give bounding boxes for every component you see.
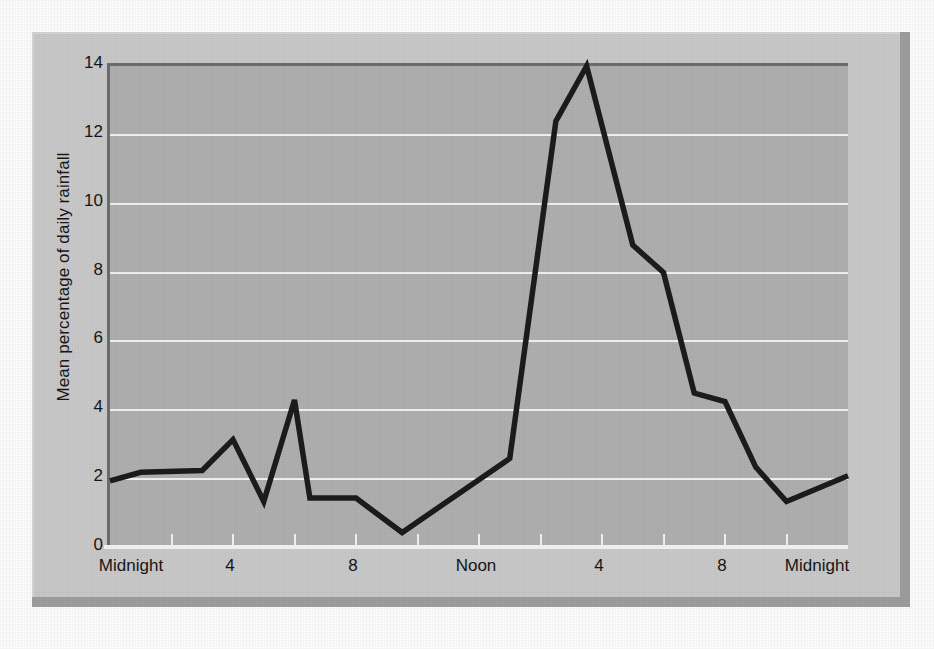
x-tick-label-6: Midnight bbox=[785, 556, 849, 576]
figure-root: Mean percentage of daily rainfall 024681… bbox=[0, 0, 934, 649]
data-line-svg bbox=[110, 66, 848, 548]
chart-card-panel: Mean percentage of daily rainfall 024681… bbox=[32, 32, 900, 597]
y-tick-label-4: 4 bbox=[69, 397, 103, 417]
x-tick-label-5: 8 bbox=[717, 556, 726, 576]
plot-area bbox=[107, 63, 848, 548]
y-axis-tick-labels: 02468101214 bbox=[59, 63, 103, 545]
rainfall-data-line bbox=[110, 66, 848, 533]
y-tick-label-0: 0 bbox=[69, 535, 103, 555]
x-tick-label-1: 4 bbox=[225, 556, 234, 576]
x-tick-label-4: 4 bbox=[594, 556, 603, 576]
x-axis-baseline bbox=[104, 545, 848, 549]
x-axis-tick-labels: Midnight48Noon48Midnight bbox=[107, 556, 845, 584]
x-tick-label-0: Midnight bbox=[99, 556, 163, 576]
y-tick-label-14: 14 bbox=[69, 53, 103, 73]
x-tick-label-2: 8 bbox=[348, 556, 357, 576]
y-tick-label-6: 6 bbox=[69, 328, 103, 348]
y-tick-label-12: 12 bbox=[69, 122, 103, 142]
y-tick-label-10: 10 bbox=[69, 191, 103, 211]
x-tick-label-3: Noon bbox=[456, 556, 497, 576]
y-tick-label-2: 2 bbox=[69, 466, 103, 486]
y-tick-label-8: 8 bbox=[69, 260, 103, 280]
